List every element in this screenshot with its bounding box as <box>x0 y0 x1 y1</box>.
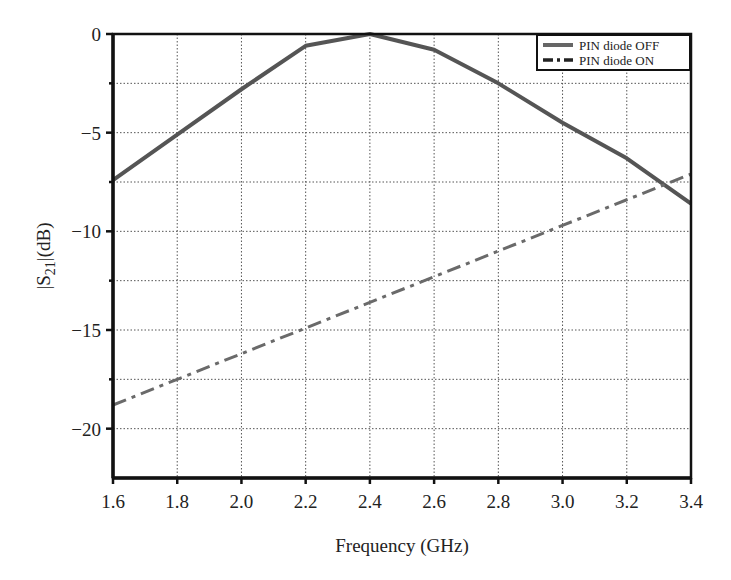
legend-label: PIN diode OFF <box>579 38 659 53</box>
x-tick-label: 1.6 <box>101 491 125 512</box>
x-axis-title: Frequency (GHz) <box>335 535 468 557</box>
x-tick-label: 3.2 <box>615 491 639 512</box>
x-tick-label: 3.4 <box>679 491 703 512</box>
x-tick-label: 1.8 <box>165 491 189 512</box>
x-tick-label: 2.2 <box>294 491 318 512</box>
y-tick-label: −10 <box>71 221 101 242</box>
x-tick-label: 3.0 <box>551 491 575 512</box>
axes: 1.61.82.02.22.42.62.83.03.23.40−5−10−15−… <box>71 24 703 512</box>
y-tick-label: 0 <box>92 24 102 45</box>
x-tick-label: 2.8 <box>486 491 510 512</box>
x-tick-label: 2.6 <box>422 491 446 512</box>
legend-label: PIN diode ON <box>579 53 655 68</box>
plot-frame <box>113 34 691 478</box>
y-axis-title: |S21|(dB) <box>33 222 58 289</box>
series-line-pin-on <box>113 174 691 405</box>
grid-lines <box>113 34 691 478</box>
svg-text:|S21|(dB): |S21|(dB) <box>33 222 58 289</box>
y-tick-label: −15 <box>71 320 101 341</box>
x-tick-label: 2.0 <box>230 491 254 512</box>
x-tick-label: 2.4 <box>358 491 382 512</box>
s21-chart: 1.61.82.02.22.42.62.83.03.23.40−5−10−15−… <box>0 0 731 580</box>
y-tick-label: −20 <box>71 419 101 440</box>
legend: PIN diode OFFPIN diode ON <box>537 35 690 70</box>
y-tick-label: −5 <box>81 123 101 144</box>
data-series <box>113 34 691 405</box>
